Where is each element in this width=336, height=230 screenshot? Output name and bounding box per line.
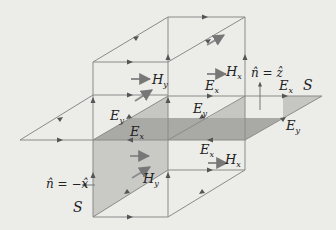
- label-hy-top: Hy: [152, 73, 168, 89]
- label-hx-top: Hx: [226, 65, 242, 81]
- label-ex-plane: Ex: [130, 125, 144, 141]
- label-hx-lower: Hx: [225, 153, 241, 169]
- label-ey-right: Ey: [286, 119, 300, 135]
- label-ey-left: Ey: [110, 109, 124, 125]
- yee-cell-diagram: Hy Hx n̂ = ẑ Ex Ex S Ey Ey Ex Ey Ex Hx n…: [0, 0, 336, 230]
- label-ex-lower: Ex: [200, 143, 214, 159]
- diagram-graphics: [0, 0, 336, 230]
- label-n-z: n̂ = ẑ: [251, 67, 283, 79]
- label-s-right: S: [303, 78, 313, 92]
- label-s-left: S: [73, 200, 83, 214]
- edge-arrows: [57, 15, 288, 220]
- label-n-minus-x: n̂ = −x̂: [46, 178, 88, 190]
- label-ey-mid: Ey: [193, 102, 207, 118]
- label-hy-lower: Hy: [143, 172, 159, 188]
- label-ex-top-right: Ex: [279, 79, 293, 95]
- label-ex-top-mid: Ex: [205, 79, 219, 95]
